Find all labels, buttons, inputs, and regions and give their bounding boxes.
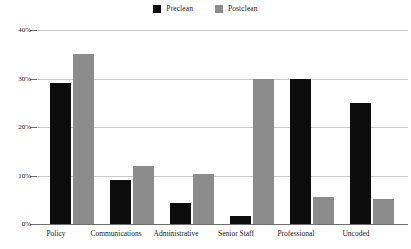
ytick-dash-10 [30,176,37,177]
ytick-label-0: 0% [0,221,31,228]
xtick-label-uncoded: Uncoded [320,229,392,238]
bar-group-policy [46,30,98,224]
bar-group-senior-staff [226,30,278,224]
chart-legend: Preclean Postclean [0,2,411,16]
bar-group-professional [286,30,338,224]
x-axis-baseline [30,224,408,225]
ytick-dash-30 [30,79,37,80]
bar-preclean-communications [110,180,131,224]
ytick-dash-40 [30,30,37,31]
bar-preclean-uncoded [350,103,371,224]
ytick-label-40: 40% [0,27,31,34]
bar-preclean-senior-staff [230,216,251,224]
plot-area: 40% 30% 20% 10% 0% [38,30,408,224]
bar-postclean-administrative [193,174,214,224]
ytick-label-30: 30% [0,76,31,83]
bar-chart: Preclean Postclean 40% 30% 20% 10% 0% [0,0,411,249]
bar-postclean-communications [133,166,154,224]
bar-preclean-professional [290,79,311,225]
bar-group-uncoded [346,30,398,224]
bar-preclean-administrative [170,203,191,224]
legend-swatch-postclean [215,5,223,13]
ytick-label-10: 10% [0,173,31,180]
bar-postclean-uncoded [373,199,394,224]
ytick-dash-20 [30,127,37,128]
legend-label-preclean: Preclean [166,5,193,13]
legend-label-postclean: Postclean [228,5,258,13]
bar-postclean-policy [73,54,94,224]
ytick-label-20: 20% [0,124,31,131]
bar-group-administrative [166,30,218,224]
bar-postclean-professional [313,197,334,224]
legend-entry-postclean: Postclean [215,5,258,13]
legend-entry-preclean: Preclean [153,5,193,13]
ytick-dash-0 [30,224,37,225]
bar-group-communications [106,30,158,224]
bar-postclean-senior-staff [253,79,274,225]
bar-preclean-policy [50,83,71,224]
legend-swatch-preclean [153,5,161,13]
